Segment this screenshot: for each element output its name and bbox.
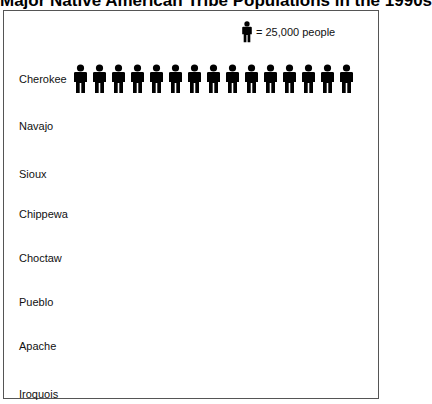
person-icon — [109, 64, 128, 94]
person-icon — [71, 64, 90, 94]
person-icon — [261, 64, 280, 94]
pictograph-row: Navajo — [19, 116, 71, 136]
pictograph-row: Choctaw — [19, 248, 71, 268]
pictograph-row: Iroquois — [19, 384, 71, 404]
row-label: Cherokee — [19, 73, 71, 85]
person-icon — [90, 64, 109, 94]
row-label: Choctaw — [19, 252, 71, 264]
person-icon — [337, 64, 356, 94]
row-label: Apache — [19, 340, 71, 352]
row-icons — [71, 64, 356, 94]
legend: = 25,000 people — [240, 17, 335, 47]
pictograph-row: Sioux — [19, 164, 71, 184]
person-icon — [299, 64, 318, 94]
person-icon — [318, 64, 337, 94]
pictograph-row: Chippewa — [19, 204, 71, 224]
person-icon — [280, 64, 299, 94]
person-icon — [240, 17, 254, 47]
row-label: Sioux — [19, 168, 71, 180]
person-icon — [128, 64, 147, 94]
person-icon — [223, 64, 242, 94]
row-label: Iroquois — [19, 388, 71, 400]
person-icon — [147, 64, 166, 94]
person-icon — [166, 64, 185, 94]
pictograph-row: Pueblo — [19, 292, 71, 312]
pictograph-row: Cherokee — [19, 64, 356, 94]
row-label: Navajo — [19, 120, 71, 132]
row-label: Pueblo — [19, 296, 71, 308]
person-icon — [204, 64, 223, 94]
person-icon — [242, 64, 261, 94]
legend-text: = 25,000 people — [256, 26, 335, 38]
pictograph-row: Apache — [19, 336, 71, 356]
person-icon — [185, 64, 204, 94]
row-label: Chippewa — [19, 208, 71, 220]
